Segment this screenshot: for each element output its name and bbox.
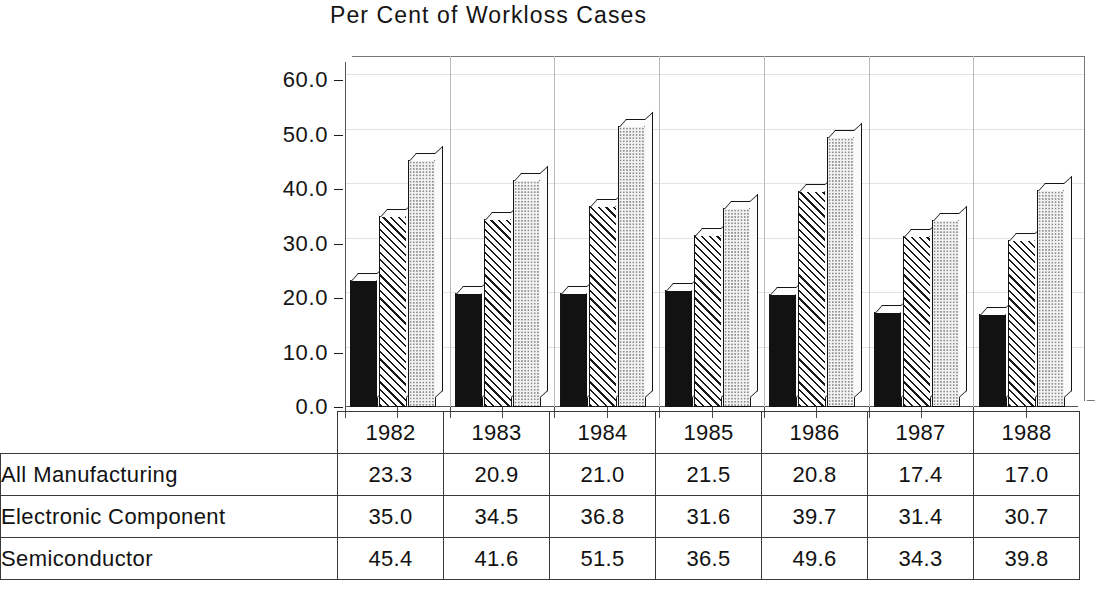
bar-1987-1 [874, 312, 902, 407]
table-cell: 51.5 [550, 538, 656, 580]
bar-1987-3 [932, 220, 960, 407]
y-axis-tick-mark [334, 353, 343, 354]
table-year-header-1982: 1982 [338, 412, 444, 454]
bar-1985-3 [723, 208, 751, 407]
table-cell: 45.4 [338, 538, 444, 580]
bar-1985-1 [665, 290, 693, 407]
bar-1982-2 [379, 216, 407, 407]
bar-side-face [645, 112, 653, 398]
table-cell: 39.8 [974, 538, 1080, 580]
table-cell: 30.7 [974, 496, 1080, 538]
table-year-header-1988: 1988 [974, 412, 1080, 454]
bar-1988-3 [1037, 190, 1065, 407]
y-axis-tick-mark [334, 407, 343, 408]
table-cell: 20.9 [444, 454, 550, 496]
bar-side-face [435, 145, 443, 398]
bar-side-face [959, 206, 967, 398]
table-cell: 41.6 [444, 538, 550, 580]
y-axis-tick-label: 10.0 [283, 340, 328, 366]
bar-side-face [854, 122, 862, 398]
y-axis-tick-mark [334, 80, 343, 81]
bar-1982-3 [408, 160, 436, 407]
bar-1983-2 [484, 219, 512, 407]
table-cell: 34.5 [444, 496, 550, 538]
y-axis-tick-label: 20.0 [283, 285, 328, 311]
table-cell: 31.4 [868, 496, 974, 538]
table-row-label: Semiconductor [1, 538, 338, 580]
y-axis-labels: 60.050.040.030.020.010.00.0 [228, 40, 328, 410]
group-separator [764, 56, 765, 407]
table-row: Electronic Component35.034.536.831.639.7… [1, 496, 1080, 538]
table-cell: 20.8 [762, 454, 868, 496]
bar-1984-3 [618, 126, 646, 407]
table-header-row: 1982198319841985198619871988 [1, 412, 1080, 454]
bar-1988-1 [979, 314, 1007, 407]
bar-1986-3 [827, 137, 855, 407]
plot-region: 60.050.040.030.020.010.00.0 [0, 40, 1098, 410]
table-corner-cell [1, 412, 338, 454]
table-cell: 17.0 [974, 454, 1080, 496]
y-axis-tick-mark [334, 298, 343, 299]
table-cell: 39.7 [762, 496, 868, 538]
plot-frame-right [1084, 56, 1085, 401]
y-axis-tick-label: 60.0 [283, 67, 328, 93]
data-table: 1982198319841985198619871988All Manufact… [0, 411, 1080, 580]
group-separator [450, 56, 451, 407]
table-cell: 36.8 [550, 496, 656, 538]
y-axis-tick-label: 50.0 [283, 122, 328, 148]
bar-1984-2 [589, 206, 617, 407]
table-cell: 34.3 [868, 538, 974, 580]
bar-1983-1 [455, 293, 483, 407]
bar-side-face [540, 166, 548, 398]
y-axis-tick-mark [334, 244, 343, 245]
table-cell: 21.0 [550, 454, 656, 496]
table-cell: 36.5 [656, 538, 762, 580]
table-cell: 21.5 [656, 454, 762, 496]
table-cell: 49.6 [762, 538, 868, 580]
plot-frame-top [352, 56, 1085, 57]
y-axis-tick-label: 40.0 [283, 176, 328, 202]
bar-1982-1 [350, 280, 378, 407]
chart-page: Per Cent of Workloss Cases 60.050.040.03… [0, 0, 1098, 604]
bar-side-face [1064, 176, 1072, 398]
bar-1987-2 [903, 236, 931, 407]
chart-title: Per Cent of Workloss Cases [330, 2, 750, 29]
group-separator [659, 56, 660, 407]
bar-1988-2 [1008, 240, 1036, 407]
table-row-label: All Manufacturing [1, 454, 338, 496]
table-cell: 35.0 [338, 496, 444, 538]
group-separator [973, 56, 974, 407]
bar-1986-2 [798, 191, 826, 407]
y-axis-tick-mark [334, 135, 343, 136]
table-year-header-1985: 1985 [656, 412, 762, 454]
bar-1986-1 [769, 294, 797, 407]
data-table-region: 1982198319841985198619871988All Manufact… [0, 411, 1098, 591]
table-row: All Manufacturing23.320.921.021.520.817.… [1, 454, 1080, 496]
table-year-header-1986: 1986 [762, 412, 868, 454]
plot-frame-corner-bottom-right [1078, 400, 1095, 409]
table-cell: 17.4 [868, 454, 974, 496]
bar-1984-1 [560, 293, 588, 407]
table-year-header-1983: 1983 [444, 412, 550, 454]
bar-1983-3 [513, 180, 541, 407]
y-axis-tick-label: 30.0 [283, 231, 328, 257]
table-year-header-1987: 1987 [868, 412, 974, 454]
table-row-label: Electronic Component [1, 496, 338, 538]
y-axis-tick-mark [334, 189, 343, 190]
table-cell: 23.3 [338, 454, 444, 496]
table-year-header-1984: 1984 [550, 412, 656, 454]
table-cell: 31.6 [656, 496, 762, 538]
group-separator [554, 56, 555, 407]
table-row: Semiconductor45.441.651.536.549.634.339.… [1, 538, 1080, 580]
bar-side-face [750, 194, 758, 398]
group-separator [869, 56, 870, 407]
bar-1985-2 [694, 235, 722, 407]
